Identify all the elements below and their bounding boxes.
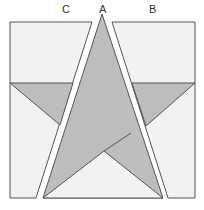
star-block-diagram	[0, 0, 204, 210]
